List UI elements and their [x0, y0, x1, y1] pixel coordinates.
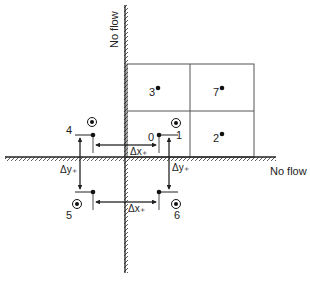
node-2-label: 2 — [213, 132, 219, 144]
node-3-label: 3 — [149, 86, 155, 98]
image-node-4-dot — [90, 120, 94, 124]
image-node-4: 4 — [66, 118, 97, 138]
no-flow-boundary-diagram: No flow No flow 0 3 7 2 1 4 5 — [0, 0, 310, 285]
grid — [127, 64, 254, 157]
image-node-4-label: 4 — [66, 124, 72, 136]
dimension-dy-right: Δy₊ — [169, 138, 189, 189]
vertical-wall — [124, 5, 128, 273]
node-0-dot — [157, 133, 162, 138]
node-4-real-dot — [91, 133, 96, 138]
image-node-1-dot — [174, 121, 178, 125]
node-5-real-dot — [91, 190, 96, 195]
dimension-dy-left: Δy₊ — [60, 138, 80, 189]
vertical-wall-label: No flow — [108, 11, 120, 48]
image-node-5-label: 5 — [66, 209, 72, 221]
image-node-6-dot — [174, 202, 178, 206]
horizontal-wall-label: No flow — [270, 165, 307, 177]
dx-bottom-label: Δx₊ — [128, 203, 145, 214]
image-node-5: 5 — [66, 190, 95, 221]
node-6-real-dot — [157, 190, 162, 195]
image-node-5-dot — [75, 202, 79, 206]
image-node-1-label: 1 — [176, 129, 182, 141]
node-0-label: 0 — [148, 131, 154, 143]
dy-left-label: Δy₊ — [60, 164, 77, 175]
image-node-6: 6 — [157, 190, 181, 221]
node-7-dot — [220, 86, 225, 91]
image-node-6-label: 6 — [174, 209, 180, 221]
node-3-dot — [156, 86, 161, 91]
horizontal-wall — [5, 157, 276, 161]
node-2-dot — [220, 132, 225, 137]
real-nodes: 0 3 7 2 — [148, 86, 224, 144]
dx-top-label: Δx₊ — [130, 146, 147, 157]
image-node-1: 1 — [161, 119, 182, 142]
dy-right-label: Δy₊ — [172, 162, 189, 173]
node-7-label: 7 — [213, 86, 219, 98]
